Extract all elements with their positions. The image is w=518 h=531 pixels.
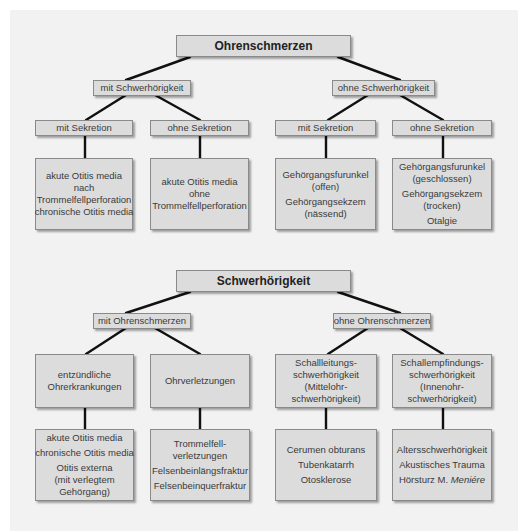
leaf-text: Cerumen obturans <box>287 444 366 456</box>
node-label: Ohrverletzungen <box>165 375 235 387</box>
leaf-text: ohne <box>189 188 210 200</box>
node-ohne-schwerhoerigkeit: ohne Schwerhörigkeit <box>332 80 435 96</box>
node-label: schwerhörigkeit) <box>407 393 476 405</box>
leaf-text: Akustisches Trauma <box>399 459 485 471</box>
node-label: entzündliche <box>58 369 111 381</box>
connector <box>338 292 400 313</box>
connector <box>328 95 368 120</box>
leaf-text: Gehörgangsfurunkel <box>399 161 485 173</box>
node-label: mit Schwerhörigkeit <box>101 82 184 94</box>
leaf-text: Altersschwerhörigkeit <box>397 444 487 456</box>
node-label: Schwerhörigkeit <box>217 275 310 287</box>
node-label: (Innenohr- <box>420 381 464 393</box>
connector <box>155 95 200 120</box>
node-schallleitungsschwerhoerigkeit: Schallleitungs- schwerhörigkeit (Mittelo… <box>275 354 377 408</box>
leaf-text: verletzungen <box>173 450 227 462</box>
leaf-text: chronische Otitis media <box>35 206 134 218</box>
leaf-text: (trocken) <box>423 200 460 212</box>
connector <box>338 57 400 80</box>
leaf-text: Otalgie <box>427 215 457 227</box>
leaf-text-part: Hörsturz M. <box>399 474 451 485</box>
leaf-text: (nässend) <box>304 208 346 220</box>
root-node-ohrenschmerzen: Ohrenschmerzen <box>176 35 351 57</box>
leaf-text: Hörsturz M. Meniére <box>399 474 485 486</box>
node-ohne-sekretion-1: ohne Sekretion <box>150 120 249 136</box>
leaf-node-2: akute Otitis media ohne Trommelfellperfo… <box>150 158 249 230</box>
leaf-text: Trommelfellperforation <box>152 200 247 212</box>
leaf-text: Tubenkatarrh <box>298 459 354 471</box>
node-label: Ohrenschmerzen <box>214 40 312 52</box>
leaf-node-3: Gehörgangsfurunkel (offen) Gehörgangsekz… <box>275 158 376 230</box>
node-schallempfindungsschwerhoerigkeit: Schallempfindungs- schwerhörigkeit (Inne… <box>392 354 492 408</box>
leaf-text: Felsenbeinquerfraktur <box>154 480 246 492</box>
node-ohrverletzungen: Ohrverletzungen <box>150 354 250 408</box>
leaf-node-5: akute Otitis media chronische Otitis med… <box>35 429 134 501</box>
leaf-text: Felsenbeinlängsfraktur <box>152 465 248 477</box>
leaf-text: Gehörgangsekzem <box>402 188 482 200</box>
leaf-node-6: Trommelfell- verletzungen Felsenbeinläng… <box>150 429 250 501</box>
leaf-text: akute Otitis media <box>161 176 237 188</box>
connector <box>126 57 190 80</box>
leaf-node-1: akute Otitis media nach Trommelfellperfo… <box>35 158 133 230</box>
leaf-text: Gehörgangsekzem <box>285 196 365 208</box>
leaf-text: (mit verlegtem <box>54 474 114 486</box>
leaf-text: nach <box>74 182 95 194</box>
node-label: schwerhörigkeit) <box>291 393 360 405</box>
leaf-node-7: Cerumen obturans Tubenkatarrh Otoskleros… <box>275 429 377 501</box>
leaf-text-italic: Meniére <box>451 474 485 485</box>
node-label: Schallempfindungs- <box>400 357 483 369</box>
node-label: mit Ohrenschmerzen <box>98 315 186 327</box>
node-label: ohne Ohrenschmerzen <box>334 315 431 327</box>
leaf-text: Otosklerose <box>301 474 352 486</box>
connector <box>328 328 368 354</box>
node-label: ohne Sekretion <box>168 122 232 134</box>
connector <box>400 95 443 120</box>
connector <box>86 328 126 354</box>
leaf-text: Trommelfellperforation <box>37 194 132 206</box>
node-label: (Mittelohr- <box>305 381 348 393</box>
leaf-text: akute Otitis media <box>46 170 122 182</box>
node-label: mit Sekretion <box>56 122 111 134</box>
node-mit-ohrenschmerzen: mit Ohrenschmerzen <box>93 313 191 329</box>
leaf-text: chronische Otitis media <box>35 447 134 459</box>
connector <box>126 292 190 313</box>
leaf-node-4: Gehörgangsfurunkel (geschlossen) Gehörga… <box>392 158 492 230</box>
leaf-text: Gehörgangsfurunkel <box>282 169 368 181</box>
node-label: schwerhörigkeit <box>409 369 475 381</box>
leaf-text: Gehörgang) <box>59 486 110 498</box>
node-label: Schallleitungs- <box>295 357 357 369</box>
leaf-text: Otitis externa <box>57 462 113 474</box>
leaf-text: (offen) <box>312 181 339 193</box>
connector <box>400 328 443 354</box>
connector <box>86 95 126 120</box>
root-node-schwerhoerigkeit: Schwerhörigkeit <box>176 270 351 292</box>
node-label: ohne Schwerhörigkeit <box>338 82 429 94</box>
node-mit-sekretion-1: mit Sekretion <box>35 120 133 136</box>
node-label: schwerhörigkeit <box>293 369 359 381</box>
node-mit-schwerhoerigkeit: mit Schwerhörigkeit <box>93 80 191 96</box>
leaf-text: akute Otitis media <box>46 432 122 444</box>
leaf-node-8: Altersschwerhörigkeit Akustisches Trauma… <box>392 429 492 501</box>
node-mit-sekretion-2: mit Sekretion <box>275 120 376 136</box>
node-label: ohne Sekretion <box>410 122 474 134</box>
leaf-text: Trommelfell- <box>174 438 226 450</box>
node-label: mit Sekretion <box>298 122 353 134</box>
leaf-text: (geschlossen) <box>412 173 471 185</box>
node-label: Ohrerkrankungen <box>48 381 122 393</box>
node-ohne-ohrenschmerzen: ohne Ohrenschmerzen <box>333 313 431 329</box>
connector <box>155 328 200 354</box>
node-ohne-sekretion-2: ohne Sekretion <box>392 120 492 136</box>
node-entzuendliche-ohrerkrankungen: entzündliche Ohrerkrankungen <box>35 354 134 408</box>
